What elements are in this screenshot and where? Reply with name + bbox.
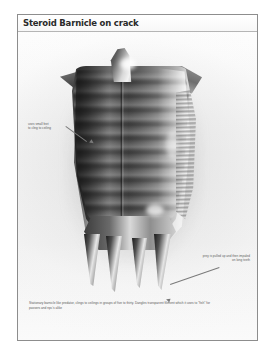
artwork-stage: uses small feet to cling to ceiling prey…: [18, 32, 258, 297]
annotation-feet: uses small feet to cling to ceiling: [28, 122, 80, 131]
creature-illustration: [54, 46, 206, 284]
concept-art-sheet: Steroid Barnicle on crack uses small: [17, 14, 258, 341]
specular-highlight-jaw: [146, 204, 164, 216]
sheet-caption: Stationary barnicle like predator, cling…: [29, 301, 221, 311]
specular-highlight-crest: [120, 58, 136, 70]
specular-highlight-side: [166, 132, 178, 158]
title-bar: Steroid Barnicle on crack: [18, 15, 257, 32]
page-title: Steroid Barnicle on crack: [23, 18, 139, 28]
central-seam: [120, 68, 124, 240]
fang-2: [106, 236, 122, 292]
annotation-teeth: prey is pulled up and then impaled on lo…: [166, 254, 250, 263]
